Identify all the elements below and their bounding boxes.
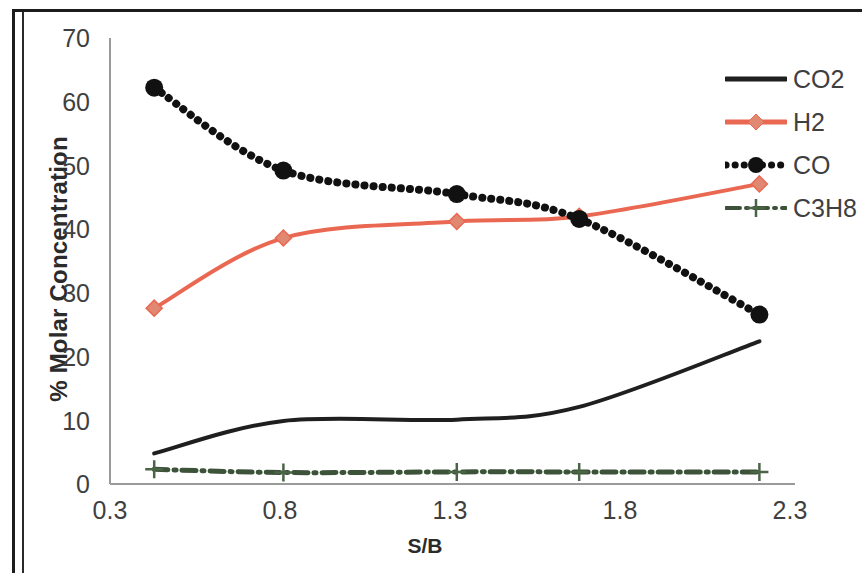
data-point-marker <box>750 306 768 324</box>
data-point-marker <box>570 210 588 228</box>
data-point-marker <box>274 464 292 482</box>
data-point-marker <box>449 213 465 229</box>
legend-label: H2 <box>793 108 825 137</box>
x-tick-label: 1.8 <box>580 496 660 525</box>
legend-item-co[interactable]: CO <box>725 148 831 182</box>
data-point-marker <box>448 185 466 203</box>
data-point-marker <box>448 463 466 481</box>
y-tick-label: 10 <box>20 407 90 436</box>
data-point-marker <box>274 162 292 180</box>
x-tick-label: 1.3 <box>410 496 490 525</box>
legend-label: CO <box>793 151 831 180</box>
x-axis-label: S/B <box>360 534 490 558</box>
y-tick-label: 20 <box>20 343 90 372</box>
y-tick-label: 70 <box>20 24 90 53</box>
legend-item-h2[interactable]: H2 <box>725 105 825 139</box>
y-tick-label: 0 <box>20 470 90 499</box>
x-tick-label: 0.3 <box>70 496 150 525</box>
chart-page: % Molar Concentration S/B 70605040302010… <box>0 0 862 573</box>
data-point-marker <box>750 463 768 481</box>
legend-label: CO2 <box>793 65 844 94</box>
legend-swatch-co-icon <box>725 154 787 176</box>
x-tick-label: 0.8 <box>240 496 320 525</box>
x-tick-label: 2.3 <box>750 496 830 525</box>
y-tick-label: 30 <box>20 279 90 308</box>
series-line <box>154 341 759 453</box>
data-point-marker <box>570 463 588 481</box>
data-point-marker <box>145 460 163 478</box>
data-point-marker <box>145 79 163 97</box>
y-tick-label: 40 <box>20 215 90 244</box>
legend-swatch-h2-icon <box>725 111 787 133</box>
data-point-marker <box>275 230 291 246</box>
legend-swatch-c3h8-icon <box>725 197 787 219</box>
series-co2 <box>154 341 759 453</box>
legend-swatch-co2-icon <box>725 68 787 90</box>
y-tick-label: 60 <box>20 88 90 117</box>
y-tick-label: 50 <box>20 152 90 181</box>
data-series-layer <box>145 79 768 482</box>
legend-label: C3H8 <box>793 194 857 223</box>
legend-item-co2[interactable]: CO2 <box>725 62 844 96</box>
series-c3h8 <box>145 460 768 481</box>
legend-item-c3h8[interactable]: C3H8 <box>725 191 857 225</box>
